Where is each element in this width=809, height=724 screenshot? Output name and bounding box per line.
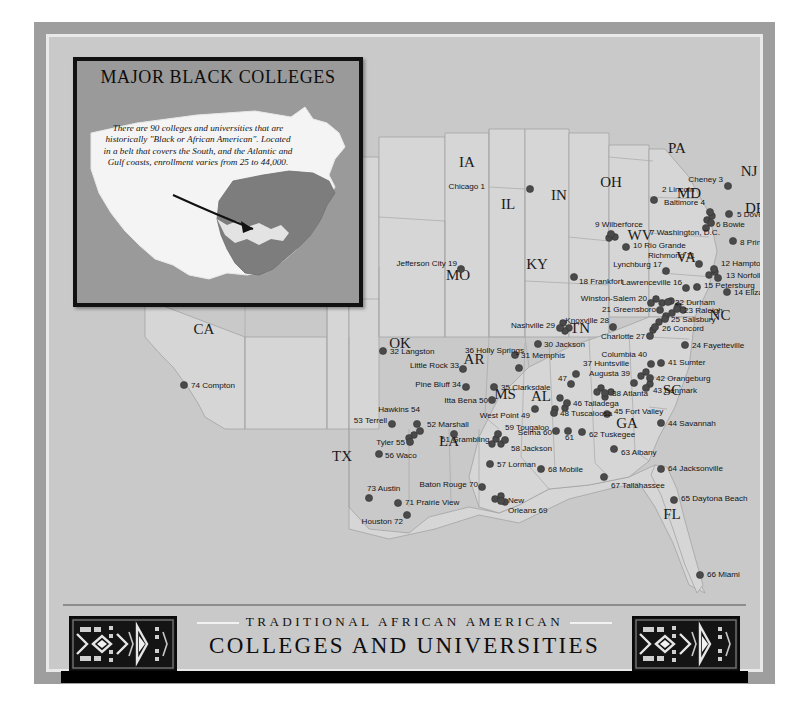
college-dot-70[interactable] xyxy=(478,483,485,490)
college-label-49: West Point 49 xyxy=(480,411,531,420)
college-dot-5[interactable] xyxy=(725,210,732,217)
college-dot-17[interactable] xyxy=(662,267,669,274)
college-dot-72[interactable] xyxy=(403,511,410,518)
college-dot-37[interactable] xyxy=(572,370,579,377)
college-label-15: 15 Petersburg xyxy=(704,281,755,290)
college-dot-65[interactable] xyxy=(670,496,677,503)
college-dot-57[interactable] xyxy=(486,460,493,467)
college-dot-30[interactable] xyxy=(534,340,541,347)
college-dot-74[interactable] xyxy=(180,381,187,388)
college-dot-41[interactable] xyxy=(657,359,664,366)
college-dot-9[interactable] xyxy=(607,230,614,237)
college-dot-4[interactable] xyxy=(706,208,713,215)
college-dot-19[interactable] xyxy=(457,265,464,272)
college-dot-54[interactable] xyxy=(413,420,420,427)
college-dot-21[interactable] xyxy=(656,306,663,313)
college-label-27: Charlotte 27 xyxy=(601,332,646,341)
college-dot-32[interactable] xyxy=(379,347,386,354)
college-label-66: 66 Miami xyxy=(707,570,740,579)
college-dot-71[interactable] xyxy=(394,499,401,506)
college-dot-8[interactable] xyxy=(729,237,736,244)
college-dot-27[interactable] xyxy=(646,332,653,339)
college-label-11: Richmond 11 xyxy=(648,251,696,260)
college-dot-40[interactable] xyxy=(647,360,654,367)
college-label-64: 64 Jacksonville xyxy=(668,464,723,473)
college-dot-15[interactable] xyxy=(693,283,700,290)
college-dot-24[interactable] xyxy=(681,341,688,348)
college-dot-36[interactable] xyxy=(515,364,522,371)
college-dot-35[interactable] xyxy=(490,383,497,390)
college-dot-25[interactable] xyxy=(661,315,668,322)
college-dot-29[interactable] xyxy=(556,324,563,331)
college-dot-18[interactable] xyxy=(570,273,577,280)
college-dot-52[interactable] xyxy=(416,427,423,434)
banner-text-block: TRADITIONAL AFRICAN AMERICAN COLLEGES AN… xyxy=(189,614,620,659)
college-dot-66[interactable] xyxy=(696,571,703,578)
college-label-33: Little Rock 33 xyxy=(410,361,460,370)
cluster-dot xyxy=(706,272,713,279)
map-plate: IAILINOHPANJMDDEMOKYWVVANCTNOKARMSALGASC… xyxy=(49,37,760,602)
college-dot-11[interactable] xyxy=(695,260,702,267)
college-dot-53[interactable] xyxy=(388,420,395,427)
college-dot-42[interactable] xyxy=(646,374,653,381)
college-dot-38[interactable] xyxy=(601,389,608,396)
kente-ornament-right xyxy=(632,616,740,672)
college-dot-46[interactable] xyxy=(563,399,570,406)
college-dot-68[interactable] xyxy=(537,465,544,472)
college-dot-23[interactable] xyxy=(673,305,680,312)
college-label-36: 36 Holly Springs xyxy=(465,346,524,355)
college-dot-3[interactable] xyxy=(724,182,731,189)
college-label-13: 13 Norfolk xyxy=(726,271,760,280)
kente-pattern-right-svg xyxy=(634,618,738,670)
college-dot-12[interactable] xyxy=(710,265,717,272)
college-label-2: 2 Lincoln xyxy=(662,185,694,194)
college-label-67: 67 Tallahassee xyxy=(611,481,665,490)
college-dot-60[interactable] xyxy=(552,427,559,434)
college-dot-59[interactable] xyxy=(494,430,501,437)
college-label-40: Columbia 40 xyxy=(602,350,648,359)
college-dot-49[interactable] xyxy=(531,405,538,412)
college-label-44: 44 Savannah xyxy=(668,419,716,428)
college-dot-48[interactable] xyxy=(550,409,557,416)
college-dot-34[interactable] xyxy=(462,383,469,390)
college-dot-67[interactable] xyxy=(600,473,607,480)
college-label-26: 26 Concord xyxy=(662,324,704,333)
college-label-3: Cheney 3 xyxy=(688,175,723,184)
college-dot-56[interactable] xyxy=(375,450,382,457)
college-dot-47[interactable] xyxy=(567,380,574,387)
college-label-73: 73 Austin xyxy=(367,484,400,493)
college-dot-50[interactable] xyxy=(488,396,495,403)
college-label-34: Pine Bluff 34 xyxy=(415,380,461,389)
college-dot-62[interactable] xyxy=(578,428,585,435)
college-label-25: 25 Salisbury xyxy=(671,315,716,324)
college-dot-1[interactable] xyxy=(526,185,533,192)
state-label-ga: GA xyxy=(616,415,638,431)
college-dot-22[interactable] xyxy=(664,298,671,305)
college-label-48: 48 Tuscaloosa xyxy=(560,409,613,418)
college-dot-44[interactable] xyxy=(657,419,664,426)
college-dot-39[interactable] xyxy=(630,379,637,386)
college-dot-16[interactable] xyxy=(682,284,689,291)
college-label-37: 37 Huntsville xyxy=(583,359,630,368)
college-dot-64[interactable] xyxy=(657,465,664,472)
poster: IAILINOHPANJMDDEMOKYWVVANCTNOKARMSALGASC… xyxy=(34,22,775,684)
college-dot-73[interactable] xyxy=(365,494,372,501)
college-dot-2[interactable] xyxy=(650,196,657,203)
inset-panel: MAJOR BLACK COLLEGES There are 90 colleg… xyxy=(73,57,363,307)
college-label-42: 42 Orangeburg xyxy=(656,374,710,383)
college-label-61: 61 xyxy=(565,433,575,442)
banner-line-one-wrapper: TRADITIONAL AFRICAN AMERICAN xyxy=(189,614,620,630)
college-dot-10[interactable] xyxy=(622,243,629,250)
college-dot-69[interactable] xyxy=(497,497,504,504)
college-dot-33[interactable] xyxy=(459,365,466,372)
college-dot-43[interactable] xyxy=(642,384,649,391)
college-dot-28[interactable] xyxy=(609,323,616,330)
college-label-57: 57 Lorman xyxy=(497,460,536,469)
inset-map-svg xyxy=(77,89,359,303)
college-dot-63[interactable] xyxy=(610,445,617,452)
inset-title: MAJOR BLACK COLLEGES xyxy=(77,67,359,88)
college-dot-26[interactable] xyxy=(651,323,658,330)
college-dot-55[interactable] xyxy=(406,438,413,445)
college-dot-58[interactable] xyxy=(501,436,508,443)
college-label-31: 31 Memphis xyxy=(521,351,565,360)
